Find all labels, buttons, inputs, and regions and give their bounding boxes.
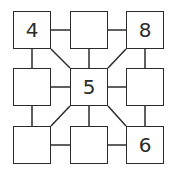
cell-r2c3[interactable] bbox=[126, 68, 164, 106]
cell-r1c3[interactable]: 8 bbox=[126, 11, 164, 49]
cell-r3c3[interactable]: 6 bbox=[126, 126, 164, 164]
cell-r2c1[interactable] bbox=[13, 68, 51, 106]
cell-r1c1[interactable]: 4 bbox=[13, 11, 51, 49]
cell-r2c2[interactable]: 5 bbox=[70, 68, 108, 106]
number-grid-puzzle: 4 8 5 6 bbox=[0, 0, 176, 173]
cell-r3c1[interactable] bbox=[13, 126, 51, 164]
cell-r3c2[interactable] bbox=[70, 126, 108, 164]
cell-r1c2[interactable] bbox=[70, 11, 108, 49]
